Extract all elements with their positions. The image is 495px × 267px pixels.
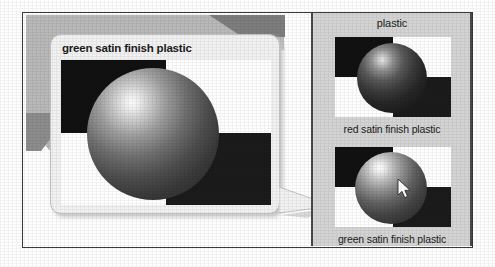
screenshot-frame: green satin finish plastic plastic bbox=[22, 12, 473, 248]
material-panel-title: plastic bbox=[313, 17, 471, 29]
material-thumbnail-1[interactable] bbox=[335, 147, 451, 227]
material-sphere bbox=[357, 43, 427, 113]
callout-tail-icon bbox=[279, 185, 311, 219]
mouse-cursor-icon bbox=[397, 179, 412, 199]
material-browser-panel: plastic red satin finish plastic green s… bbox=[313, 13, 471, 246]
preview-area: green satin finish plastic bbox=[23, 13, 311, 246]
panel-right-border bbox=[470, 13, 472, 246]
material-label-1: green satin finish plastic bbox=[313, 233, 471, 245]
material-preview-swatch[interactable] bbox=[61, 60, 271, 205]
material-sphere bbox=[355, 152, 427, 224]
material-preview-callout[interactable]: green satin finish plastic bbox=[50, 34, 280, 214]
material-label-0: red satin finish plastic bbox=[313, 123, 471, 135]
material-thumbnail-0[interactable] bbox=[335, 37, 451, 117]
callout-title: green satin finish plastic bbox=[62, 42, 192, 54]
preview-sphere bbox=[87, 68, 219, 200]
